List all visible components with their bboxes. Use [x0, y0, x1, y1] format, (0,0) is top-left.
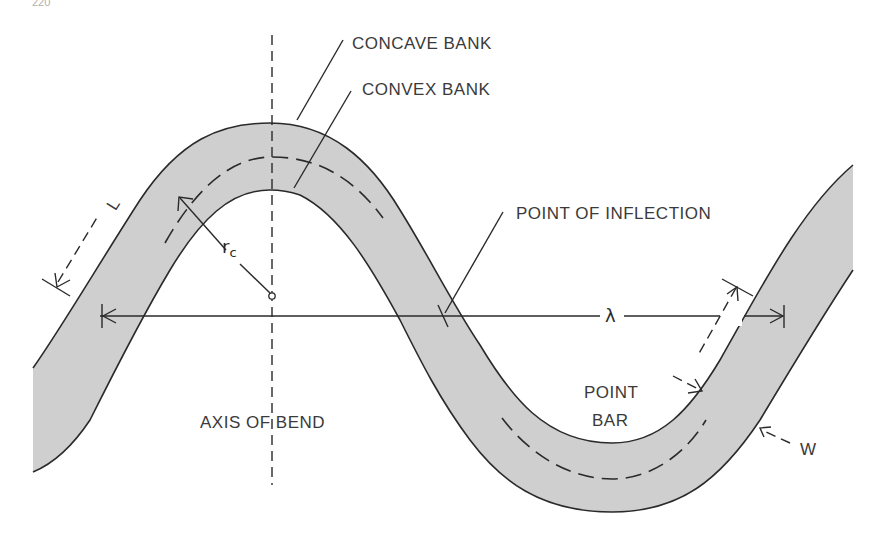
width-label: W	[800, 440, 817, 459]
width-arrow-line	[762, 430, 790, 443]
inflection-leader	[445, 212, 503, 313]
point-of-inflection-label: POINT OF INFLECTION	[516, 204, 711, 223]
radius-label: rc	[222, 236, 237, 260]
page-number: 220	[32, 0, 50, 8]
axis-label-anchor	[240, 410, 252, 411]
convex-bank-label: CONVEX BANK	[362, 80, 490, 99]
length-dashed-line	[58, 216, 98, 282]
concave-bank-leader	[297, 40, 343, 120]
concave-bank-label: CONCAVE BANK	[352, 34, 492, 53]
meander-diagram: 220 rc L λ POINT OF INFLECTION CONCAVE B…	[0, 0, 876, 542]
point-bar-arrow-line	[673, 376, 700, 390]
length-label: L	[103, 195, 124, 214]
bend-center-point	[269, 293, 275, 299]
point-bar-arrowhead-icon	[688, 379, 702, 393]
axis-of-bend-label: AXIS OF BEND	[200, 413, 325, 432]
point-bar-label-line2: BAR	[592, 411, 628, 430]
width-arrowhead-icon	[760, 427, 771, 437]
point-bar-label-line1: POINT	[584, 383, 638, 402]
wavelength-label: λ	[605, 305, 616, 326]
radius-line	[240, 264, 270, 293]
